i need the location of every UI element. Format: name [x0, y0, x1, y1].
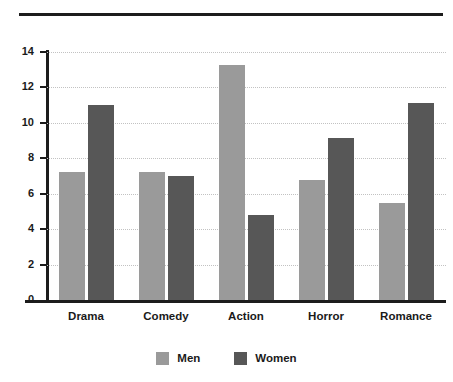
- header-divider: [19, 13, 443, 16]
- legend-swatch-women: [234, 352, 247, 365]
- category-label-comedy: Comedy: [126, 310, 206, 323]
- y-tick-label-12: 12: [4, 81, 34, 92]
- category-label-romance: Romance: [366, 310, 446, 323]
- bar-action-women: [248, 215, 274, 300]
- bar-romance-women: [408, 103, 434, 300]
- chart-legend: MenWomen: [0, 352, 453, 365]
- legend-item-men[interactable]: Men: [156, 352, 200, 365]
- bar-horror-women: [328, 138, 354, 300]
- y-tick-label-4: 4: [4, 223, 34, 234]
- bar-comedy-men: [139, 172, 165, 300]
- y-tick-label-0: 0: [4, 294, 34, 305]
- bar-comedy-women: [168, 176, 194, 300]
- plot-area: [46, 52, 446, 300]
- y-tick-label-8: 8: [4, 152, 34, 163]
- category-label-drama: Drama: [46, 310, 126, 323]
- legend-swatch-men: [156, 352, 169, 365]
- bar-drama-men: [59, 172, 85, 300]
- bar-horror-men: [299, 180, 325, 300]
- y-tick-label-10: 10: [4, 117, 34, 128]
- category-label-horror: Horror: [286, 310, 366, 323]
- bar-romance-men: [379, 203, 405, 300]
- category-label-action: Action: [206, 310, 286, 323]
- legend-item-women[interactable]: Women: [234, 352, 296, 365]
- chart-title-cropped: [14, 0, 194, 4]
- y-tick-label-14: 14: [4, 46, 34, 57]
- y-tick-label-6: 6: [4, 188, 34, 199]
- bar-action-men: [219, 65, 245, 300]
- legend-label-women: Women: [255, 352, 296, 365]
- chart-page: 02468101214 DramaComedyActionHorrorRoman…: [0, 0, 453, 382]
- y-tick-label-2: 2: [4, 259, 34, 270]
- bar-drama-women: [88, 105, 114, 300]
- x-axis-line: [25, 300, 446, 303]
- legend-label-men: Men: [177, 352, 200, 365]
